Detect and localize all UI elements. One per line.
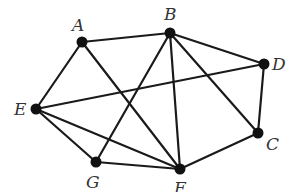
node-a xyxy=(77,37,88,48)
node-label-f: F xyxy=(173,178,187,192)
graph-diagram: ABDCEGF xyxy=(0,0,296,192)
node-label-d: D xyxy=(271,54,286,74)
edge-a-f xyxy=(82,42,180,169)
labels-group: ABDCEGF xyxy=(13,4,286,192)
node-f xyxy=(175,164,186,175)
edge-e-f xyxy=(36,109,180,169)
edge-b-f xyxy=(170,33,180,169)
edge-c-f xyxy=(180,133,258,169)
edge-d-c xyxy=(258,64,264,133)
edge-a-e xyxy=(36,42,82,109)
node-e xyxy=(31,104,42,115)
node-label-b: B xyxy=(163,4,177,24)
node-g xyxy=(91,157,102,168)
node-label-a: A xyxy=(70,15,84,35)
node-d xyxy=(259,59,270,70)
edge-a-b xyxy=(82,33,170,42)
node-label-c: C xyxy=(266,134,279,154)
node-label-g: G xyxy=(86,172,100,192)
edge-e-g xyxy=(36,109,96,162)
node-c xyxy=(253,128,264,139)
nodes-group xyxy=(31,28,270,175)
node-label-e: E xyxy=(13,99,27,119)
edges-group xyxy=(36,33,264,169)
node-b xyxy=(165,28,176,39)
